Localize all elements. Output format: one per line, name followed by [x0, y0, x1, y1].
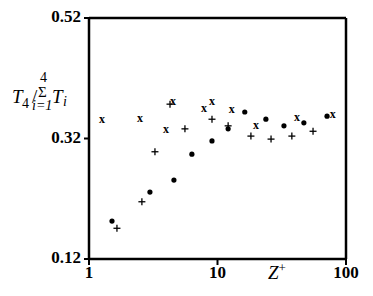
x-marker: x: [201, 101, 207, 115]
x-marker: x: [163, 122, 169, 136]
data-points: xxxxxxxxxx: [99, 94, 336, 232]
x-tick-label: 10: [193, 263, 243, 283]
dot-marker: [147, 190, 152, 195]
plus-marker: [113, 225, 120, 232]
x-marker: x: [209, 94, 215, 108]
plus-marker: [247, 133, 254, 140]
dot-marker: [189, 152, 194, 157]
x-label-z: Z: [268, 262, 279, 283]
y-label-sub: 4: [22, 96, 29, 112]
plus-marker: [181, 125, 188, 132]
x-tick-label: 1: [64, 263, 114, 283]
x-marker: x: [170, 94, 176, 108]
x-marker: x: [294, 110, 300, 124]
dot-marker: [263, 117, 268, 122]
plot-axes: [84, 18, 346, 265]
plus-marker: [310, 128, 317, 135]
x-tick-label: 100: [321, 263, 371, 283]
y-label-i: i: [63, 94, 67, 110]
x-marker: x: [137, 111, 143, 125]
plus-marker: [268, 136, 275, 143]
x-marker: x: [99, 112, 105, 126]
plus-marker: [288, 133, 295, 140]
dot-marker: [324, 114, 329, 119]
plus-marker: [138, 198, 145, 205]
y-label-sum-bottom: i=1: [32, 98, 52, 114]
x-label-sup: +: [279, 260, 286, 275]
x-marker: x: [253, 118, 259, 132]
dot-marker: [301, 120, 306, 125]
x-axis-label: Z+: [268, 260, 286, 284]
y-label-ti: T: [52, 86, 63, 108]
dot-marker: [242, 109, 247, 114]
plus-marker: [151, 148, 158, 155]
dot-marker: [171, 177, 176, 182]
plus-marker: [208, 116, 215, 123]
y-tick-label: 0.52: [21, 7, 81, 27]
y-tick-label: 0.32: [21, 128, 81, 148]
dot-marker: [281, 123, 286, 128]
dot-marker: [209, 138, 214, 143]
dot-marker: [226, 126, 231, 131]
x-marker: x: [229, 102, 235, 116]
y-label-t: T: [12, 86, 23, 108]
dot-marker: [109, 218, 114, 223]
x-marker: x: [330, 107, 336, 121]
